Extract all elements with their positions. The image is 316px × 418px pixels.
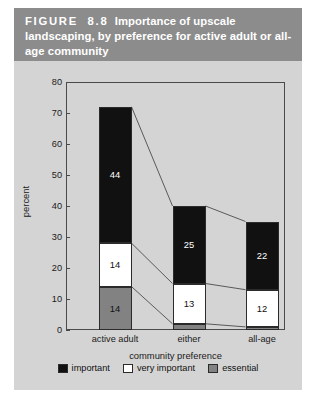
- legend-label: very important: [137, 363, 195, 373]
- bar-segment-very-important[interactable]: 12: [246, 290, 279, 327]
- chart-legend: importantvery importantessential: [14, 363, 302, 373]
- y-axis-tick-mark: [66, 237, 70, 238]
- y-axis-tick-label: 0: [40, 325, 62, 335]
- bar-segment-very-important[interactable]: 13: [173, 284, 206, 324]
- y-axis-tick-mark: [66, 299, 70, 300]
- y-axis-tick-mark: [66, 206, 70, 207]
- y-axis-tick-label: 50: [40, 170, 62, 180]
- figure-number: FIGURE 8.8: [25, 15, 108, 27]
- figure-caption: FIGURE 8.8 Importance of upscale landsca…: [25, 14, 292, 60]
- legend-label: important: [72, 363, 110, 373]
- y-axis-tick-mark: [66, 268, 70, 269]
- legend-swatch: [208, 364, 218, 373]
- bar-segment-essential[interactable]: 14: [99, 287, 132, 330]
- x-axis-tick-label: all-age: [222, 334, 302, 344]
- bar-active-adult[interactable]: 141444: [99, 82, 132, 330]
- y-axis-tick-label: 40: [40, 201, 62, 211]
- x-axis-label: community preference: [66, 350, 285, 361]
- y-axis-tick-label: 20: [40, 263, 62, 273]
- legend-item[interactable]: important: [58, 363, 110, 373]
- y-axis-tick-mark: [66, 82, 70, 83]
- figure-container: FIGURE 8.8 Importance of upscale landsca…: [14, 8, 302, 390]
- y-axis-tick-labels: 01020304050607080: [36, 61, 62, 390]
- y-axis-tick-mark: [66, 144, 70, 145]
- x-axis-tick-label: active adult: [75, 334, 155, 344]
- y-axis-tick-label: 10: [40, 294, 62, 304]
- y-axis-tick-mark: [66, 113, 70, 114]
- legend-swatch: [58, 364, 68, 373]
- x-axis-tick-label: either: [149, 334, 229, 344]
- figure-caption-band: FIGURE 8.8 Importance of upscale landsca…: [14, 8, 302, 61]
- bar-either[interactable]: 21325: [173, 82, 206, 330]
- legend-label: essential: [222, 363, 258, 373]
- bar-all-age[interactable]: 11222: [246, 82, 279, 330]
- legend-swatch: [123, 364, 133, 373]
- y-axis-label: percent: [20, 172, 31, 232]
- y-axis-tick-label: 60: [40, 139, 62, 149]
- bar-segment-important[interactable]: 25: [173, 206, 206, 284]
- y-axis-tick-label: 80: [40, 77, 62, 87]
- legend-item[interactable]: essential: [208, 363, 258, 373]
- y-axis-tick-mark: [66, 330, 70, 331]
- y-axis-tick-label: 30: [40, 232, 62, 242]
- y-axis-tick-label: 70: [40, 108, 62, 118]
- y-axis-tick-mark: [66, 175, 70, 176]
- bar-segment-very-important[interactable]: 14: [99, 243, 132, 286]
- chart-plot-area: 01020304050607080 percent 14144421325112…: [14, 61, 302, 390]
- bar-segment-important[interactable]: 44: [99, 107, 132, 243]
- bar-segment-important[interactable]: 22: [246, 222, 279, 290]
- legend-item[interactable]: very important: [123, 363, 195, 373]
